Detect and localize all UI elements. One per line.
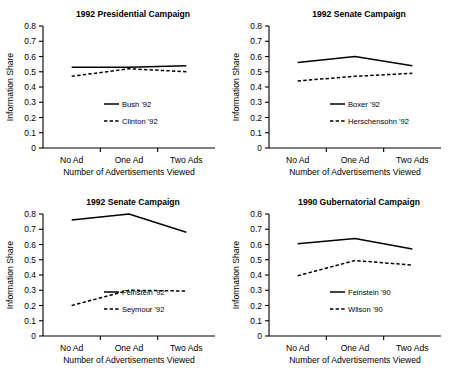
y-tick-label: 0.7 [24,224,36,234]
x-category-label: One Ad [341,343,370,353]
y-tick-label: 0.5 [24,255,36,265]
y-tick-label: 0 [31,143,36,153]
legend-label: Wilson '90 [348,305,383,314]
y-tick-label: 0.2 [250,113,262,123]
panel-title: 1992 Senate Campaign [312,9,406,19]
y-tick-label: 0.2 [24,301,36,311]
y-tick-label: 0.7 [24,36,36,46]
y-axis-title: Information Share [5,53,15,122]
x-axis-title: Number of Advertisements Viewed [63,167,195,177]
y-tick-label: 0.6 [24,240,36,250]
chart-panel: 1990 Gubernatorial Campaign00.10.20.30.4… [226,188,452,377]
chart-panel: 1992 Senate Campaign00.10.20.30.40.50.60… [226,0,452,188]
y-tick-label: 0.4 [24,270,36,280]
y-tick-label: 0.8 [24,209,36,219]
y-tick-label: 0.6 [250,52,262,62]
y-tick-label: 0.5 [250,67,262,77]
y-tick-label: 0.3 [250,97,262,107]
y-tick-label: 0.8 [250,21,262,31]
chart-panel: 1992 Presidential Campaign00.10.20.30.40… [0,0,226,188]
y-tick-label: 0.8 [250,209,262,219]
panel-title: 1990 Gubernatorial Campaign [298,197,420,207]
y-tick-label: 0.4 [24,82,36,92]
panel-title: 1992 Presidential Campaign [76,9,190,19]
legend-label: Seymour '92 [122,305,164,314]
y-tick-label: 0.5 [250,255,262,265]
series-line [72,66,187,68]
y-tick-label: 0 [31,331,36,341]
legend-label: Boxer '92 [348,100,380,109]
series-line [72,214,187,232]
y-tick-label: 0.3 [250,285,262,295]
y-tick-label: 0.1 [250,316,262,326]
legend-label: Feinstein '92 [122,288,165,297]
y-axis-title: Information Share [231,53,241,122]
y-tick-label: 0.1 [24,128,36,138]
x-axis-title: Number of Advertisements Viewed [63,355,195,365]
y-tick-label: 0.2 [250,301,262,311]
y-tick-label: 0.1 [250,128,262,138]
series-line [298,238,413,249]
x-category-label: No Ad [60,343,84,353]
y-tick-label: 0 [257,143,262,153]
x-category-label: Two Ads [170,343,202,353]
y-tick-label: 0.1 [24,316,36,326]
x-category-label: Two Ads [396,155,428,165]
series-line [298,73,413,81]
legend-label: Clinton '92 [122,117,158,126]
legend-label: Herschensohn '92 [348,117,409,126]
y-tick-label: 0.4 [250,270,262,280]
y-tick-label: 0.6 [24,52,36,62]
y-tick-label: 0.7 [250,224,262,234]
chart-panel: 1992 Senate Campaign00.10.20.30.40.50.60… [0,188,226,377]
y-tick-label: 0.6 [250,240,262,250]
y-tick-label: 0.3 [24,97,36,107]
x-category-label: No Ad [60,155,84,165]
x-category-label: One Ad [115,343,144,353]
y-tick-label: 0.8 [24,21,36,31]
legend-label: Bush '92 [122,100,151,109]
y-tick-label: 0.5 [24,67,36,77]
y-tick-label: 0.4 [250,82,262,92]
legend-label: Feinstein '90 [348,288,391,297]
x-category-label: No Ad [286,155,310,165]
panel-title: 1992 Senate Campaign [86,197,180,207]
series-line [298,261,413,276]
y-tick-label: 0 [257,331,262,341]
x-axis-title: Number of Advertisements Viewed [289,355,421,365]
x-category-label: Two Ads [396,343,428,353]
y-axis-title: Information Share [231,241,241,310]
series-line [298,57,413,66]
y-axis-title: Information Share [5,241,15,310]
y-tick-label: 0.7 [250,36,262,46]
series-line [72,69,187,77]
chart-figure: 1992 Presidential Campaign00.10.20.30.40… [0,0,452,377]
y-tick-label: 0.3 [24,285,36,295]
x-axis-title: Number of Advertisements Viewed [289,167,421,177]
x-category-label: One Ad [115,155,144,165]
x-category-label: Two Ads [170,155,202,165]
x-category-label: One Ad [341,155,370,165]
x-category-label: No Ad [286,343,310,353]
y-tick-label: 0.2 [24,113,36,123]
